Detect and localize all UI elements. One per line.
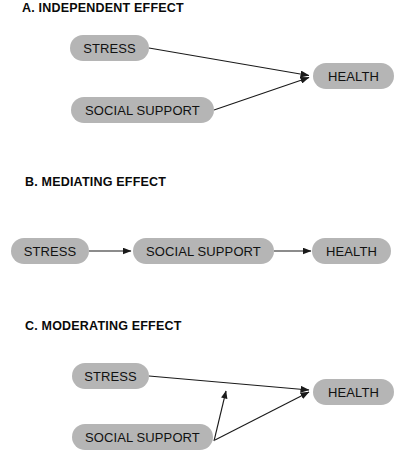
edge-stress-to-health [149, 48, 309, 76]
node-stress-label: STRESS [83, 42, 136, 55]
panel-independent-effect: A. INDEPENDENT EFFECT STRESS SOCIAL SUPP… [0, 0, 404, 155]
node-social-support[interactable]: SOCIAL SUPPORT [133, 238, 274, 264]
node-health[interactable]: HEALTH [313, 63, 394, 89]
node-social-support[interactable]: SOCIAL SUPPORT [71, 97, 214, 123]
node-health-label: HEALTH [326, 245, 377, 258]
node-health-label: HEALTH [328, 386, 379, 399]
panel-moderating-effect: C. MODERATING EFFECT STRESS SOCIAL SUPPO… [0, 310, 404, 461]
node-social-support-label: SOCIAL SUPPORT [85, 431, 200, 444]
node-social-support-label: SOCIAL SUPPORT [146, 245, 261, 258]
node-social-support[interactable]: SOCIAL SUPPORT [72, 424, 213, 450]
node-stress[interactable]: STRESS [70, 35, 149, 61]
panel-a-heading: A. INDEPENDENT EFFECT [22, 1, 184, 15]
panel-c-heading: C. MODERATING EFFECT [25, 319, 182, 333]
node-stress[interactable]: STRESS [72, 363, 149, 389]
panel-b-heading: B. MEDIATING EFFECT [25, 175, 166, 189]
node-social-support-label: SOCIAL SUPPORT [85, 104, 200, 117]
node-health-label: HEALTH [328, 70, 379, 83]
effect-models-diagram: A. INDEPENDENT EFFECT STRESS SOCIAL SUPP… [0, 0, 404, 461]
edge-social-support-to-stress-health-path [214, 391, 226, 441]
edge-social-support-to-health [215, 392, 309, 440]
edge-stress-to-health [149, 376, 309, 390]
panel-mediating-effect: B. MEDIATING EFFECT STRESS SOCIAL SUPPOR… [0, 155, 404, 310]
node-health[interactable]: HEALTH [312, 238, 391, 264]
edge-social-support-to-health [214, 78, 309, 111]
node-health[interactable]: HEALTH [313, 379, 394, 405]
node-stress[interactable]: STRESS [11, 238, 89, 264]
node-stress-label: STRESS [84, 370, 137, 383]
node-stress-label: STRESS [24, 245, 77, 258]
